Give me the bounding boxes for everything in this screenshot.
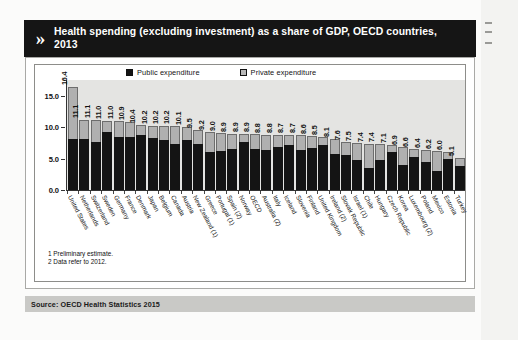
bar-segment-public xyxy=(250,149,260,190)
bar-value-label: 8.6 xyxy=(299,124,308,134)
figure-header-banner: » Health spending (excluding investment)… xyxy=(24,20,476,57)
bar-segment-public xyxy=(443,159,453,190)
bar-column: 10.1 xyxy=(182,80,192,190)
bar-value-label: 6.0 xyxy=(436,141,445,151)
bar-segment-private xyxy=(398,147,408,165)
bar-column: 10.2 xyxy=(170,80,180,190)
bar-value-label: 10.2 xyxy=(140,110,149,123)
bar-segment-public xyxy=(409,157,419,190)
bar-segment-private xyxy=(387,145,397,152)
bar-segment-private xyxy=(330,139,340,154)
document-page: » Health spending (excluding investment)… xyxy=(0,0,481,340)
bar-value-label: 6.4 xyxy=(413,138,422,148)
bar-column: 8.9 xyxy=(250,80,260,190)
bar-segment-public xyxy=(148,138,158,190)
bar-column: 11.1 xyxy=(79,80,89,190)
legend-swatch-public-icon xyxy=(126,69,133,76)
bar-value-label: 7.5 xyxy=(345,131,354,141)
bar-segment-private xyxy=(375,144,385,160)
bar-column: 8.9 xyxy=(227,80,237,190)
bar-segment-public xyxy=(136,135,146,190)
bar-segment-private xyxy=(341,142,351,155)
bar-segment-private xyxy=(193,130,203,144)
bar-segment-public xyxy=(102,132,112,190)
bar-column: 6.9 xyxy=(398,80,408,190)
bar-value-label: 10.9 xyxy=(117,106,126,119)
bar-value-label: 7.6 xyxy=(333,131,342,141)
bar-segment-private xyxy=(352,143,362,161)
bar-segment-private xyxy=(91,120,101,142)
bar-column: 6.6 xyxy=(409,80,419,190)
bar-segment-public xyxy=(364,168,374,190)
footnote: 2 Data refer to 2012. xyxy=(48,258,113,266)
y-axis-tick-label: 0.0 xyxy=(49,186,59,195)
bar-column: 10.9 xyxy=(125,80,135,190)
bar-segment-public xyxy=(341,155,351,190)
bar-segment-private xyxy=(284,135,294,145)
legend-swatch-private-icon xyxy=(240,69,247,76)
bar-value-label: 6.2 xyxy=(424,139,433,149)
bar-value-label: 8.9 xyxy=(220,123,229,133)
bar-segment-private xyxy=(205,132,215,152)
bar-value-label: 7.1 xyxy=(379,134,388,144)
bar-column: 9.0 xyxy=(216,80,226,190)
bar-segment-public xyxy=(125,137,135,190)
bar-segment-public xyxy=(182,140,192,190)
bar-column: 5.1 xyxy=(455,80,465,190)
bar-segment-public xyxy=(68,139,78,190)
bar-value-label: 9.5 xyxy=(186,119,195,129)
bar-segment-public xyxy=(421,162,431,190)
bar-value-label: 6.9 xyxy=(390,135,399,145)
bar-segment-private xyxy=(159,126,169,140)
page-right-margin xyxy=(481,0,518,340)
bar-segment-public xyxy=(227,149,237,190)
page-title: Health spending (excluding investment) a… xyxy=(54,26,476,51)
bar-segment-public xyxy=(387,152,397,190)
bar-segment-private xyxy=(170,126,180,144)
bar-column: 6.2 xyxy=(432,80,442,190)
bar-segment-private xyxy=(239,134,249,142)
bar-value-label: 8.7 xyxy=(277,124,286,134)
bar-value-label: 8.9 xyxy=(242,123,251,133)
bar-segment-private xyxy=(148,126,158,139)
legend-label-public: Public expenditure xyxy=(137,68,200,77)
bar-column: 8.8 xyxy=(261,80,271,190)
bar-segment-private xyxy=(125,122,135,137)
bar-value-label: 9.2 xyxy=(197,121,206,131)
y-axis-tick-mark xyxy=(61,127,65,128)
bar-segment-private xyxy=(250,134,260,149)
bar-segment-public xyxy=(193,144,203,190)
bar-value-label: 7.4 xyxy=(356,132,365,142)
bar-segment-public xyxy=(261,150,271,190)
bar-column: 8.8 xyxy=(273,80,283,190)
bar-segment-public xyxy=(114,137,124,190)
bar-column: 10.2 xyxy=(148,80,158,190)
bar-segment-public xyxy=(205,152,215,190)
bar-segment-private xyxy=(421,150,431,162)
bar-segment-public xyxy=(159,140,169,190)
legend-item-private: Private expenditure xyxy=(240,68,317,77)
bar-segment-public xyxy=(170,144,180,190)
footnote: 1 Preliminary estimate. xyxy=(48,250,113,258)
bar-series-container: 16.411.111.111.011.010.910.410.210.210.2… xyxy=(67,80,465,190)
bar-segment-private xyxy=(182,127,192,141)
bar-segment-private xyxy=(273,135,283,147)
bar-value-label: 10.2 xyxy=(151,110,160,123)
bar-value-label: 8.7 xyxy=(288,124,297,134)
bar-column: 8.9 xyxy=(239,80,249,190)
y-axis: 0.05.010.015.0 xyxy=(35,80,65,190)
chart-plot-area: 0.05.010.015.0 16.411.111.111.011.010.91… xyxy=(35,80,465,190)
bar-segment-public xyxy=(273,147,283,190)
y-axis-tick-label: 5.0 xyxy=(49,154,59,163)
bar-column: 11.1 xyxy=(91,80,101,190)
bar-segment-public xyxy=(284,145,294,190)
bar-segment-private xyxy=(261,135,271,151)
y-axis-tick-label: 15.0 xyxy=(45,91,59,100)
double-chevron-right-icon: » xyxy=(24,29,54,48)
legend-item-public: Public expenditure xyxy=(126,68,200,77)
bar-column: 10.4 xyxy=(136,80,146,190)
bar-segment-public xyxy=(307,148,317,190)
bar-segment-private xyxy=(432,151,442,170)
bar-value-label: 8.1 xyxy=(322,128,331,138)
bar-segment-public xyxy=(239,142,249,190)
